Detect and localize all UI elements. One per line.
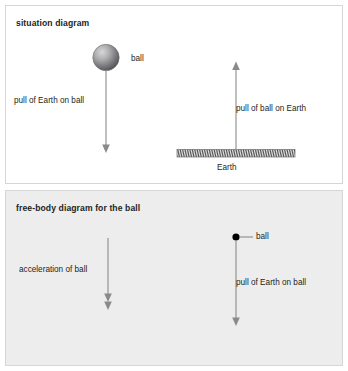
figure-canvas: situation diagram free-body diagram for … <box>0 0 348 371</box>
label-pull-of-earth-on-ball: pull of Earth on ball <box>14 96 84 105</box>
label-ball-free-body: ball <box>256 232 269 241</box>
panel-situation-heading: situation diagram <box>16 18 89 28</box>
label-pull-of-earth-on-ball-free-body: pull of Earth on ball <box>236 278 306 287</box>
label-pull-of-ball-on-earth: pull of ball on Earth <box>236 104 306 113</box>
label-acceleration-of-ball: acceleration of ball <box>19 265 87 274</box>
panel-situation-diagram <box>5 5 343 184</box>
panel-free-body-heading: free-body diagram for the ball <box>16 203 140 213</box>
label-ball-situation: ball <box>131 54 144 63</box>
label-earth: Earth <box>217 163 237 172</box>
